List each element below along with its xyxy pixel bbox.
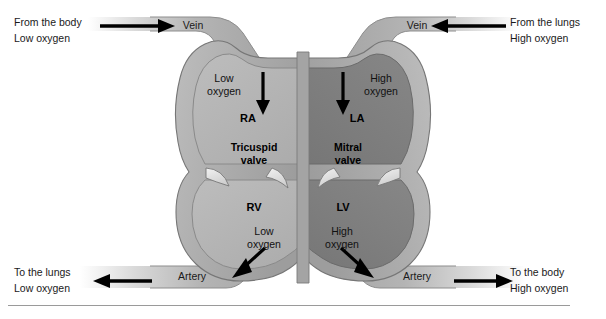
note-lv-oxygen: High oxygen <box>325 225 359 251</box>
caption-to-body-line1: To the body <box>510 264 568 280</box>
heart-diagram-figure: From the body Low oxygen From the lungs … <box>0 0 606 319</box>
caption-from-lungs: From the lungs High oxygen <box>510 14 580 46</box>
label-right-atrium: RA <box>240 112 256 124</box>
label-tricuspid-valve-line1: Tricuspid <box>231 141 278 154</box>
label-vein-left: Vein <box>183 19 203 31</box>
caption-to-body-line2: High oxygen <box>510 280 568 296</box>
note-ra-oxygen-line2: oxygen <box>207 85 241 98</box>
note-rv-oxygen-line2: oxygen <box>247 238 281 251</box>
note-rv-oxygen-line1: Low <box>247 225 281 238</box>
note-lv-oxygen-line2: oxygen <box>325 238 359 251</box>
label-artery-left: Artery <box>178 270 206 282</box>
label-mitral-valve-line1: Mitral <box>334 141 362 154</box>
label-tricuspid-valve: Tricuspid valve <box>231 141 278 167</box>
label-artery-right: Artery <box>403 270 431 282</box>
caption-from-lungs-line1: From the lungs <box>510 14 580 30</box>
note-rv-oxygen: Low oxygen <box>247 225 281 251</box>
label-left-atrium: LA <box>350 112 365 124</box>
note-ra-oxygen-line1: Low <box>207 72 241 85</box>
label-vein-right: Vein <box>407 19 427 31</box>
caption-to-lungs-line1: To the lungs <box>14 264 71 280</box>
note-ra-oxygen: Low oxygen <box>207 72 241 98</box>
caption-from-body-line1: From the body <box>14 14 82 30</box>
note-lv-oxygen-line1: High <box>325 225 359 238</box>
label-mitral-valve: Mitral valve <box>334 141 362 167</box>
caption-to-lungs-line2: Low oxygen <box>14 280 71 296</box>
note-la-oxygen-line2: oxygen <box>364 85 398 98</box>
label-tricuspid-valve-line2: valve <box>231 154 278 167</box>
label-mitral-valve-line2: valve <box>334 154 362 167</box>
septum <box>297 52 309 283</box>
figure-divider-rule <box>8 305 570 306</box>
label-right-ventricle: RV <box>246 201 261 213</box>
caption-from-lungs-line2: High oxygen <box>510 30 580 46</box>
caption-to-body: To the body High oxygen <box>510 264 568 296</box>
caption-from-body: From the body Low oxygen <box>14 14 82 46</box>
caption-from-body-line2: Low oxygen <box>14 30 82 46</box>
note-la-oxygen-line1: High <box>364 72 398 85</box>
caption-to-lungs: To the lungs Low oxygen <box>14 264 71 296</box>
note-la-oxygen: High oxygen <box>364 72 398 98</box>
label-left-ventricle: LV <box>336 201 349 213</box>
